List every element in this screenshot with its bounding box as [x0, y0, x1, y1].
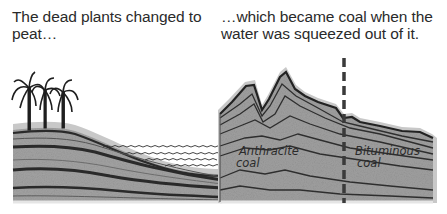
label-anthracite-coal: coal — [236, 156, 260, 170]
label-bituminous-coal: coal — [357, 156, 381, 170]
peat-block — [13, 122, 222, 203]
coal-block — [218, 67, 437, 203]
palm-trees-icon — [12, 72, 78, 130]
coal-formation-diagram: Anthracite coal Bituminous coal — [0, 0, 447, 214]
